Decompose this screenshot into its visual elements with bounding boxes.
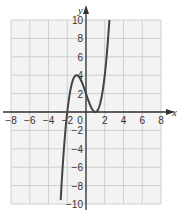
y-tick-label: −6 xyxy=(72,162,84,173)
y-tick-label: −8 xyxy=(72,181,84,192)
y-tick-label: −2 xyxy=(72,125,84,136)
x-tick-label: 6 xyxy=(139,115,145,126)
x-tick-label: 8 xyxy=(158,115,164,126)
y-tick-label: −10 xyxy=(66,199,83,210)
x-tick-label: −8 xyxy=(5,115,17,126)
y-tick-label: 2 xyxy=(77,89,83,100)
y-axis-label: y xyxy=(77,4,83,16)
x-tick-label: 0 xyxy=(77,115,83,126)
x-tick-label: 4 xyxy=(121,115,127,126)
x-axis-label: x xyxy=(171,106,177,118)
y-axis-arrow-icon xyxy=(83,5,89,14)
x-tick-label: 2 xyxy=(102,115,108,126)
cubic-graph: −8−6−4−202468−10−8−6−4−2246810 x y xyxy=(0,0,185,213)
y-tick-label: 8 xyxy=(77,33,83,44)
y-tick-label: −4 xyxy=(72,144,84,155)
y-tick-label: 10 xyxy=(72,15,84,26)
x-tick-label: −6 xyxy=(24,115,36,126)
x-tick-label: −4 xyxy=(43,115,55,126)
y-tick-label: 6 xyxy=(77,52,83,63)
